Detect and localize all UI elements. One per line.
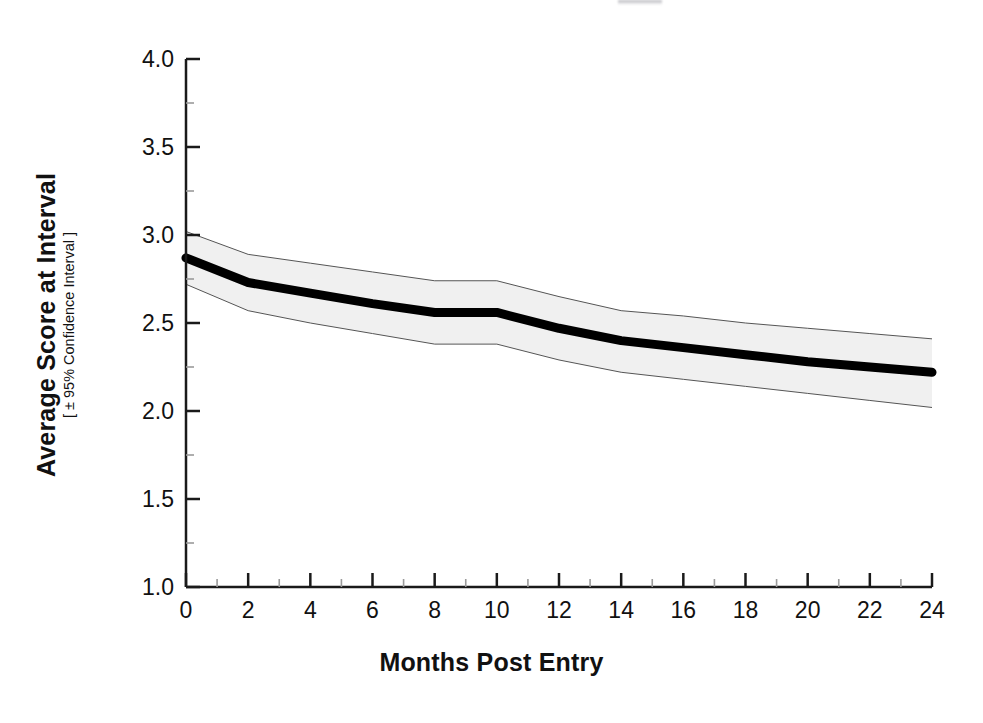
x-tick-label-16: 16 (671, 597, 697, 624)
x-tick-label-2: 2 (242, 597, 255, 624)
y-tick-label-1.5: 1.5 (90, 486, 174, 513)
chart-page: 1.01.52.02.53.03.54.0 024681012141618202… (0, 0, 983, 723)
y-axis-title: Average Score at Interval [ ± 95% Confid… (20, 115, 90, 535)
x-tick-label-20: 20 (795, 597, 821, 624)
x-tick-label-12: 12 (546, 597, 572, 624)
y-tick-label-2.0: 2.0 (90, 398, 174, 425)
y-tick-label-2.5: 2.5 (90, 310, 174, 337)
y-tick-label-3.0: 3.0 (90, 222, 174, 249)
y-tick-label-3.5: 3.5 (90, 134, 174, 161)
confidence-band (186, 231, 932, 407)
x-tick-label-6: 6 (366, 597, 379, 624)
y-axis-title-main: Average Score at Interval (33, 173, 59, 477)
x-tick-label-22: 22 (857, 597, 883, 624)
y-axis-title-subtitle: [ ± 95% Confidence Interval ] (62, 232, 77, 418)
x-tick-label-24: 24 (919, 597, 945, 624)
y-tick-label-4.0: 4.0 (90, 46, 174, 73)
x-axis-title: Months Post Entry (0, 648, 983, 677)
x-tick-label-10: 10 (484, 597, 510, 624)
x-tick-label-8: 8 (428, 597, 441, 624)
x-tick-label-18: 18 (733, 597, 759, 624)
x-tick-label-14: 14 (608, 597, 634, 624)
y-tick-label-1.0: 1.0 (90, 574, 174, 601)
x-tick-label-0: 0 (180, 597, 193, 624)
x-tick-label-4: 4 (304, 597, 317, 624)
